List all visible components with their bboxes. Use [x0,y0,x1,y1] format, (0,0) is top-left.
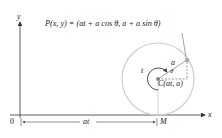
origin-label: 0 [10,118,14,126]
x-axis-label: x [208,111,212,119]
y-axis-label: y [17,13,21,21]
contact-point-label: M [160,118,167,126]
angle-t-label: t [141,67,143,75]
point-p [185,58,189,62]
point-p-formula: P(x, y) = (at + a cos θ, a + a sin θ) [45,20,161,28]
radius-label: a [171,59,175,67]
angle-theta-label: θ [170,68,173,75]
center-label: C(at, a) [158,80,183,88]
distance-label: at [83,118,89,126]
